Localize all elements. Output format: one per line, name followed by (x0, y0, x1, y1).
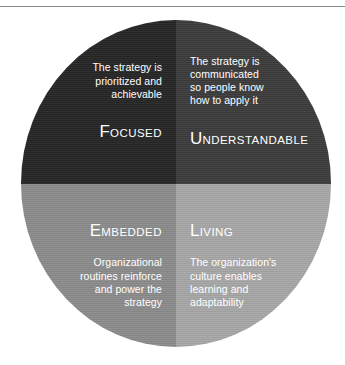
quadrant-focused-label-rest: OCUSED (110, 127, 162, 139)
quadrant-living-description: The organization's culture enables learn… (190, 256, 317, 309)
quadrant-embedded-description: Organizational routines reinforce and po… (39, 256, 162, 309)
quadrant-embedded: EMBEDDED Organizational routines reinfor… (21, 184, 176, 348)
quadrant-living: LIVING The organization's culture enable… (176, 184, 331, 348)
quadrant-understandable-label-rest: NDERSTANDABLE (202, 134, 308, 146)
four-quadrant-strategy-diagram: The strategy is prioritized and achievab… (21, 20, 331, 347)
quadrant-understandable: The strategy is communicated so people k… (176, 20, 331, 184)
quadrant-embedded-label: EMBEDDED (39, 221, 162, 241)
quadrant-focused: The strategy is prioritized and achievab… (21, 20, 176, 184)
header-divider-rule (0, 6, 345, 7)
quadrant-circle: The strategy is prioritized and achievab… (21, 20, 331, 347)
quadrant-understandable-label: UNDERSTANDABLE (190, 129, 321, 149)
quadrant-embedded-label-rest: MBEDDED (101, 226, 162, 238)
quadrant-focused-content: The strategy is prioritized and achievab… (21, 61, 176, 142)
quadrant-focused-description: The strategy is prioritized and achievab… (39, 61, 162, 101)
quadrant-embedded-content: EMBEDDED Organizational routines reinfor… (21, 221, 176, 309)
quadrant-understandable-description: The strategy is communicated so people k… (190, 55, 321, 108)
quadrant-embedded-label-initial: E (90, 221, 102, 240)
quadrant-living-label-rest: IVING (200, 226, 234, 238)
quadrant-understandable-label-initial: U (190, 129, 202, 148)
quadrant-living-label: LIVING (190, 221, 317, 241)
quadrant-understandable-content: The strategy is communicated so people k… (176, 55, 331, 149)
quadrant-focused-label-initial: F (100, 122, 111, 141)
quadrant-focused-label: FOCUSED (39, 122, 162, 142)
quadrant-living-content: LIVING The organization's culture enable… (176, 221, 331, 309)
quadrant-living-label-initial: L (190, 221, 200, 240)
